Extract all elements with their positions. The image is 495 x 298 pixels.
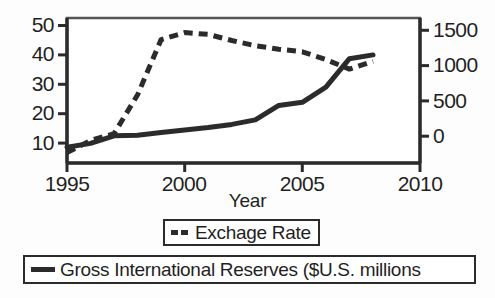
left-tick-label-30: 30 bbox=[6, 73, 54, 94]
left-tick-label-40: 40 bbox=[6, 43, 54, 64]
x-axis-title: Year bbox=[0, 190, 495, 212]
right-tick-label-1500: 1500 bbox=[433, 19, 495, 40]
right-tick-label-1000: 1000 bbox=[433, 54, 495, 75]
legend-gross-international-reserves[interactable]: Gross International Reserves ($U.S. mill… bbox=[23, 255, 476, 284]
legend-reserves-label: Gross International Reserves ($U.S. mill… bbox=[60, 260, 421, 279]
solid-line-swatch-icon bbox=[31, 267, 55, 272]
chart-figure: 50 40 30 20 10 1500 1000 500 0 1995 2000… bbox=[0, 0, 495, 298]
left-tick-label-50: 50 bbox=[6, 14, 54, 35]
left-tick-label-20: 20 bbox=[6, 102, 54, 123]
left-tick-label-10: 10 bbox=[6, 132, 54, 153]
legend-exchange-rate[interactable]: Exchage Rate bbox=[163, 219, 320, 246]
plot-frame bbox=[67, 18, 420, 163]
right-tick-label-500: 500 bbox=[433, 90, 495, 111]
dashed-line-swatch-icon bbox=[171, 230, 191, 235]
right-tick-label-0: 0 bbox=[433, 125, 495, 146]
legend-exchange-rate-label: Exchage Rate bbox=[195, 223, 311, 242]
plot-area: 50 40 30 20 10 1500 1000 500 0 1995 2000… bbox=[0, 0, 495, 210]
